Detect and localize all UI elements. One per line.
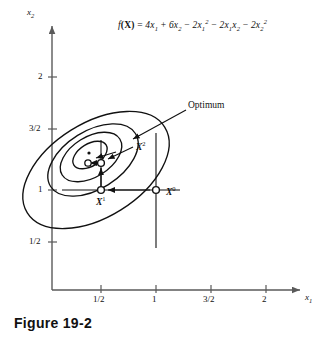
point-label-x2: X2 [136,140,146,152]
y-axis-label: x2 [27,7,34,19]
figure-caption: Figure 19-2 [14,315,92,331]
contour-third [52,122,131,192]
x-axis-label: x1 [305,292,312,304]
y-tick-label-0: 1/2 [29,236,41,246]
point-intermediate [85,160,91,166]
x-tick-label-0: 1/2 [93,294,105,304]
x-tick-label-3: 2 [262,294,267,304]
contour-curves [2,87,189,253]
point-optimum [87,151,90,154]
point-label-x2-sup: 2 [142,140,145,147]
x-tick-label-2: 3/2 [203,294,215,304]
point-x1 [98,187,105,194]
x-axis-label-sub: 1 [309,297,312,304]
x-axis-ticks [101,285,266,293]
point-label-x1-sup: 1 [102,195,105,202]
figure-container: f(X) = 4x1 + 6x2 − 2x12 − 2x1x2 − 2x22 f… [0,0,328,342]
optimum-leader-line [133,110,186,139]
contour-plot [0,0,328,342]
contour-outer [2,87,189,253]
point-x2 [98,160,105,167]
point-label-x0: X0 [166,185,176,197]
objective-function-equation: f(X) = 4x1 + 6x2 − 2x12 − 2x1x2 − 2x22 [118,18,267,32]
y-tick-label-3: 2 [38,71,43,81]
point-label-x0-sup: 0 [172,185,175,192]
y-tick-label-2: 3/2 [29,123,41,133]
y-axis-label-sub: 2 [31,12,34,19]
point-label-x1: X1 [96,195,106,207]
x-tick-label-1: 1 [152,294,157,304]
point-x0 [153,187,160,194]
y-tick-label-1: 1 [38,184,43,194]
optimum-label: Optimum [188,100,224,110]
